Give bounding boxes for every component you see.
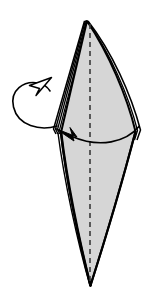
- origami-diagram-figure: Origami step diagram: turn the model ove…: [0, 0, 160, 306]
- origami-diagram-canvas: [0, 0, 160, 306]
